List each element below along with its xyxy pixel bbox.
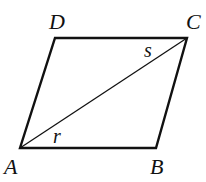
angle-label-s: s <box>144 39 152 61</box>
vertex-label-d: D <box>48 9 65 34</box>
diagonal-ac <box>20 38 187 148</box>
vertex-label-b: B <box>150 154 163 179</box>
angle-label-r: r <box>53 125 61 147</box>
vertex-label-a: A <box>2 154 18 179</box>
parallelogram-diagram: D C A B s r <box>0 0 206 182</box>
vertex-label-c: C <box>186 9 201 34</box>
